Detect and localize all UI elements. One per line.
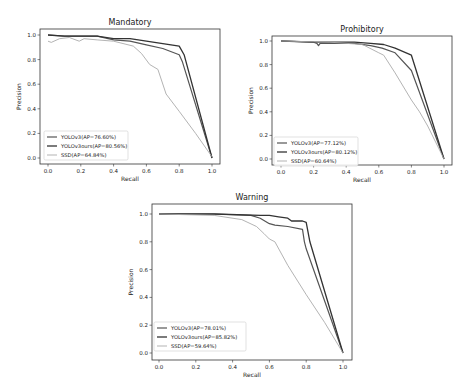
y-tick-label: 0.6 (27, 81, 36, 87)
x-tick-label: 0.8 (302, 364, 311, 370)
x-tick-label: 0.4 (109, 168, 118, 174)
legend-entry: YOLOv3(AP=77.12%) (290, 140, 346, 146)
legend-entry: YOLOv3ours(AP=80.12%) (290, 149, 357, 155)
y-tick-label: 0.4 (259, 109, 268, 115)
y-tick-label: 0.8 (259, 62, 268, 68)
legend-entry: YOLOv3(AP=76.60%) (60, 134, 116, 140)
x-tick-label: 0.8 (407, 169, 416, 175)
y-axis-label: Precision (247, 87, 254, 114)
y-tick-label: 0.2 (27, 130, 36, 136)
x-tick-label: 1.0 (208, 168, 217, 174)
y-tick-label: 1.0 (139, 211, 148, 217)
x-tick-label: 0.4 (342, 169, 351, 175)
y-tick-label: 0.2 (139, 322, 148, 328)
x-tick-label: 0.4 (228, 364, 237, 370)
x-tick-label: 0.0 (44, 168, 53, 174)
y-tick-label: 0.8 (27, 57, 36, 63)
figure-canvas: Mandatory0.00.20.40.60.81.00.00.20.40.60… (0, 0, 462, 388)
y-tick-label: 0.0 (259, 156, 268, 162)
y-tick-label: 0.6 (139, 267, 148, 273)
y-tick-label: 1.0 (259, 38, 268, 44)
legend-entry: SSD(AP=64.84%) (61, 152, 106, 158)
x-axis-label: Recall (243, 371, 261, 378)
x-tick-label: 1.0 (440, 169, 449, 175)
legend-entry: YOLOv3ours(AP=85.82%) (170, 334, 237, 340)
x-tick-label: 0.0 (277, 169, 286, 175)
x-axis-label: Recall (353, 176, 371, 183)
x-tick-label: 1.0 (339, 364, 348, 370)
legend-entry: SSD(AP=59.64%) (171, 343, 216, 349)
legend-entry: SSD(AP=60.64%) (291, 158, 336, 164)
y-tick-label: 1.0 (27, 32, 36, 38)
x-tick-label: 0.8 (175, 168, 184, 174)
y-tick-label: 0.4 (139, 294, 148, 300)
chart-title: Prohibitory (340, 25, 384, 34)
y-tick-label: 0.6 (259, 85, 268, 91)
y-tick-label: 0.4 (27, 106, 36, 112)
chart-title: Mandatory (109, 18, 152, 27)
y-tick-label: 0.8 (139, 239, 148, 245)
y-tick-label: 0.2 (259, 132, 268, 138)
chart-title: Warning (236, 193, 269, 202)
x-tick-label: 0.2 (76, 168, 85, 174)
x-tick-label: 0.6 (374, 169, 383, 175)
legend-entry: YOLOv3ours(AP=80.56%) (60, 143, 127, 149)
legend-entry: YOLOv3(AP=78.01%) (170, 325, 226, 331)
x-tick-label: 0.6 (142, 168, 151, 174)
y-axis-label: Precision (127, 268, 134, 295)
x-tick-label: 0.6 (265, 364, 274, 370)
chart-mandatory: Mandatory0.00.20.40.60.81.00.00.20.40.60… (15, 18, 220, 182)
y-tick-label: 0.0 (27, 155, 36, 161)
chart-prohibitory: Prohibitory0.00.20.40.60.81.00.00.20.40.… (247, 25, 452, 183)
x-axis-label: Recall (121, 175, 139, 182)
x-tick-label: 0.2 (191, 364, 200, 370)
y-tick-label: 0.0 (139, 350, 148, 356)
x-tick-label: 0.0 (155, 364, 164, 370)
x-tick-label: 0.2 (309, 169, 318, 175)
chart-warning: Warning0.00.20.40.60.81.00.00.20.40.60.8… (127, 193, 352, 378)
y-axis-label: Precision (15, 83, 22, 110)
